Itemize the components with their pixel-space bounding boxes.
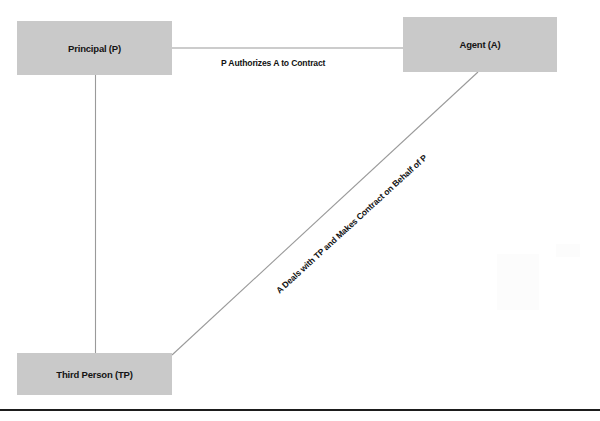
node-principal[interactable]: Principal (P) [17,21,172,75]
scan-artifact [497,254,539,310]
node-third-person-label: Third Person (TP) [56,369,132,380]
edge-line-deals [172,72,478,355]
footer-divider [0,409,600,411]
edge-label-deals: A Deals with TP and Makes Contract on Be… [274,152,429,295]
scan-artifact [556,244,580,257]
node-principal-label: Principal (P) [68,43,121,54]
node-third-person[interactable]: Third Person (TP) [17,353,172,395]
edge-label-authorize: P Authorizes A to Contract [221,58,325,68]
diagram-canvas: Principal (P) Agent (A) Third Person (TP… [0,0,600,421]
node-agent[interactable]: Agent (A) [403,17,557,72]
node-agent-label: Agent (A) [460,39,501,50]
